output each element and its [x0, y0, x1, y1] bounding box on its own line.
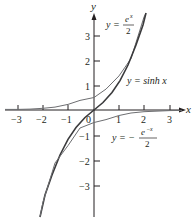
svg-text:e: e [141, 127, 145, 137]
svg-text:y = −: y = − [111, 132, 135, 143]
x-tick-label: 1 [116, 114, 121, 125]
annotation-neg-exp-neg-half: y = − e −x 2 [111, 126, 157, 149]
y-axis-arrow-icon [92, 13, 97, 20]
x-tick-label: −2 [36, 114, 47, 125]
y-tick-label: 3 [85, 31, 90, 42]
svg-text:2: 2 [126, 26, 131, 36]
svg-text:y =: y = [105, 19, 120, 30]
y-tick-label: −3 [79, 181, 90, 192]
annotation-sinh: y = sinh x [126, 75, 167, 86]
curve-exp-half [5, 13, 146, 109]
hyperbolic-chart: x y −3 −2 −1 0 1 2 3 3 2 1 −1 −2 −3 y = … [0, 0, 195, 219]
y-tick-label: 1 [85, 81, 90, 92]
origin-label: 0 [86, 114, 91, 125]
svg-text:2: 2 [145, 139, 150, 149]
x-tick-label: −1 [61, 114, 72, 125]
curve-neg-exp-neg-half [40, 110, 182, 217]
y-ticks [94, 36, 100, 186]
svg-text:−x: −x [146, 126, 153, 132]
x-axis-label: x [185, 103, 191, 115]
y-axis-label: y [90, 0, 96, 12]
x-tick-label: 3 [167, 114, 172, 125]
annotation-exp-half: y = e x 2 [105, 13, 134, 36]
curve-sinh [40, 13, 146, 217]
svg-text:e: e [125, 14, 129, 24]
svg-text:x: x [129, 13, 133, 19]
x-tick-label: 2 [141, 114, 146, 125]
y-tick-label: 2 [85, 56, 90, 67]
y-tick-label: −1 [79, 131, 90, 142]
y-tick-label: −2 [79, 156, 90, 167]
x-tick-label: −3 [11, 114, 22, 125]
